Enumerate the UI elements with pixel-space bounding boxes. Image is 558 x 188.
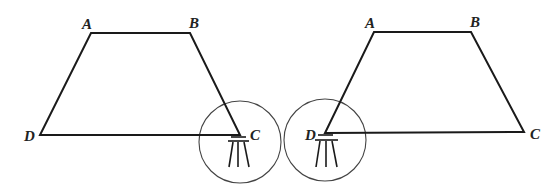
right-figure: A B C D bbox=[284, 14, 541, 181]
vertex-label-b: B bbox=[469, 14, 480, 30]
theodolite-tripod-icon bbox=[315, 135, 338, 167]
vertex-label-a: A bbox=[81, 16, 92, 32]
vertex-label-c: C bbox=[250, 127, 261, 143]
trapezoid-abcd-left bbox=[40, 33, 240, 135]
diagram-canvas: A B C D A B C D bbox=[0, 0, 558, 188]
trapezoid-abcd-right bbox=[325, 32, 524, 133]
left-figure: A B C D bbox=[23, 15, 281, 183]
theodolite-tripod-icon bbox=[228, 137, 249, 167]
vertex-label-d: D bbox=[304, 127, 316, 143]
vertex-label-a: A bbox=[364, 15, 375, 31]
vertex-label-b: B bbox=[188, 15, 199, 31]
vertex-label-d: D bbox=[23, 128, 35, 144]
vertex-label-c: C bbox=[530, 126, 541, 142]
instrument-circle-left bbox=[199, 101, 281, 183]
